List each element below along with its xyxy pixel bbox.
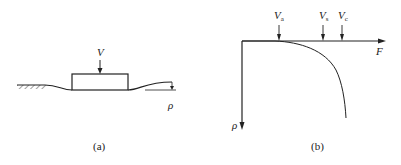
x-axis-label: F bbox=[375, 45, 383, 57]
marker-vc-sub: c bbox=[345, 15, 348, 23]
y-axis-arrow-icon bbox=[240, 122, 245, 130]
svg-text:Vs: Vs bbox=[319, 9, 329, 23]
marker-va-arrow-icon bbox=[277, 34, 281, 41]
load-settlement-curve bbox=[242, 41, 346, 118]
svg-text:Va: Va bbox=[274, 9, 285, 23]
marker-vs-arrow-icon bbox=[321, 34, 325, 41]
marker-vs-sub: s bbox=[326, 15, 329, 23]
diagram-canvas: V ρ (a) F ρ Va Vs Vc (b) bbox=[0, 0, 401, 165]
marker-vc: Vc bbox=[338, 9, 348, 41]
x-axis-arrow-icon bbox=[378, 39, 386, 44]
marker-vc-arrow-icon bbox=[340, 34, 344, 41]
ground-surface-right bbox=[128, 82, 172, 90]
panel-b: F ρ Va Vs Vc (b) bbox=[231, 9, 386, 153]
load-label: V bbox=[97, 46, 105, 58]
load-arrow-icon bbox=[98, 68, 103, 74]
marker-vs: Vs bbox=[319, 9, 329, 41]
caption-a: (a) bbox=[93, 140, 106, 153]
marker-va-sub: a bbox=[281, 15, 285, 23]
foundation-block bbox=[72, 74, 128, 90]
settlement-label: ρ bbox=[167, 99, 173, 111]
y-axis-label: ρ bbox=[231, 119, 237, 131]
svg-text:Vc: Vc bbox=[338, 9, 348, 23]
caption-b: (b) bbox=[311, 140, 324, 153]
panel-a: V ρ (a) bbox=[17, 46, 176, 153]
settlement-arrow-icon bbox=[170, 86, 174, 90]
marker-va: Va bbox=[274, 9, 285, 41]
